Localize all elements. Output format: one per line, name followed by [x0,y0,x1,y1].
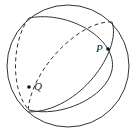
great-circle-b-front [28,22,113,112]
point-p-label: P [95,42,103,54]
sphere-diagram: P Q [0,0,136,134]
sphere-outline [7,5,129,127]
point-q-label: Q [34,80,42,92]
point-q-dot [27,85,31,89]
great-circle-b [28,22,113,112]
great-circle-a [15,17,112,112]
point-p-dot [106,47,110,51]
